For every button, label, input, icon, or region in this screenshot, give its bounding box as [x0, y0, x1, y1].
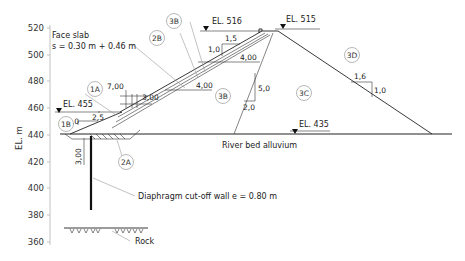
el-515-label: EL. 515 [286, 15, 316, 24]
el-516-label: EL. 516 [212, 17, 242, 26]
dim-berm-height: 3,00 [142, 93, 159, 102]
diaphragm-label: Diaphragm cut-off wall e = 0.80 m [138, 192, 277, 201]
tick-500: 500 [28, 50, 44, 60]
water-level-icon [203, 26, 209, 31]
svg-text:3C: 3C [299, 89, 309, 98]
svg-text:3B: 3B [169, 17, 179, 26]
elevation-axis: 520 500 480 460 440 420 400 380 360 EL. … [14, 23, 50, 247]
svg-text:3D: 3D [347, 51, 358, 60]
dam-cross-section-diagram: 520 500 480 460 440 420 400 380 360 EL. … [0, 0, 465, 261]
svg-text:2B: 2B [152, 34, 162, 43]
dim-core-h: 2,0 [243, 103, 255, 112]
water-level-icon [292, 129, 298, 134]
tick-400: 400 [28, 183, 44, 193]
zone-1B: 1B [59, 117, 74, 132]
tick-420: 420 [28, 157, 44, 167]
el-435-label: EL. 435 [299, 120, 329, 129]
face-slab-label: Face slab [52, 31, 89, 40]
river-bed-label: River bed alluvium [222, 141, 297, 150]
tick-480: 480 [28, 76, 44, 86]
tick-360: 360 [28, 237, 44, 247]
svg-text:1B: 1B [61, 120, 71, 129]
tick-460: 460 [28, 103, 44, 113]
zone-2A: 2A [119, 155, 134, 170]
face-slab-thickness: s = 0.30 m + 0.46 m [52, 42, 136, 51]
zone-markers: 3B 2B 1A 1B 2A 3B 3C 3D [59, 14, 360, 170]
plinth-hatch [90, 134, 125, 139]
rock-hatch [70, 229, 143, 233]
dim-1B-h: 2,5 [92, 113, 104, 122]
dim-crest-h: 1,5 [225, 34, 237, 43]
tick-440: 440 [28, 130, 44, 140]
dim-ds-h: 1,6 [354, 72, 366, 81]
water-level-icon [280, 24, 286, 29]
axis-title: EL. m [14, 126, 24, 150]
svg-text:3B: 3B [218, 92, 228, 101]
dim-core-v: 5,0 [258, 84, 270, 93]
crest-and-downstream-face [259, 29, 432, 134]
axis-ticks [47, 28, 50, 242]
zone-3B-top: 3B [167, 14, 182, 29]
svg-text:1A: 1A [90, 85, 101, 94]
zone-3C: 3C [297, 86, 312, 101]
rock-boundary [64, 228, 148, 233]
rock-label: Rock [135, 237, 154, 246]
zone-2B: 2B [150, 31, 165, 46]
dim-berm-width: 7,00 [107, 82, 124, 91]
dim-wall-depth: 3,00 [74, 148, 83, 165]
zone-3B-mid: 3B [216, 89, 231, 104]
dim-crest-v: 1,0 [208, 45, 220, 54]
dim-ds-v: 1,0 [374, 86, 386, 95]
zone-1A: 1A [88, 82, 103, 97]
leader-lines [85, 22, 205, 241]
zone-3D: 3D [345, 48, 360, 63]
tick-380: 380 [28, 210, 44, 220]
dim-width-upper: 4,00 [240, 53, 257, 62]
svg-text:2A: 2A [121, 158, 132, 167]
el-455-label: EL. 455 [63, 100, 93, 109]
dim-width-lower: 4,00 [196, 81, 213, 90]
tick-520: 520 [28, 23, 44, 33]
